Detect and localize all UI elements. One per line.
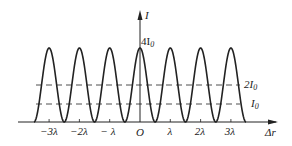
tick-label-neg1: − λ [101, 125, 116, 137]
label-2i0: 2I0 [244, 78, 257, 92]
tick-label-neg2: −2λ [70, 125, 88, 137]
interference-diagram: I 4I0 2I0 I0 Δr −3λ −2λ − λ O λ 2λ 3λ [0, 0, 292, 146]
label-i0: I0 [250, 97, 259, 111]
tick-label-origin: O [136, 126, 144, 138]
x-axis-label: Δr [264, 126, 276, 138]
tick-label-neg3: −3λ [40, 125, 58, 137]
x-axis-arrow-icon [268, 120, 278, 125]
peak-label: 4I0 [141, 35, 154, 49]
y-axis-label: I [144, 9, 150, 21]
tick-label-pos2: 2λ [195, 125, 206, 137]
tick-label-pos3: 3λ [224, 125, 236, 137]
tick-label-pos1: λ [167, 125, 173, 137]
y-axis-arrow-icon [138, 10, 143, 20]
